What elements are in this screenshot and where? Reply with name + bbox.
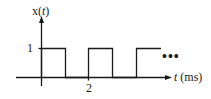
x-axis-arrow-icon xyxy=(165,75,172,80)
x-tick-label: 2 xyxy=(86,82,92,94)
continuation-ellipsis: ••• xyxy=(162,50,180,64)
x-axis-label: t (ms) xyxy=(174,71,202,83)
y-tick-label: 1 xyxy=(27,42,33,54)
square-wave-signal xyxy=(42,49,162,78)
y-axis-label: x(t) xyxy=(32,5,49,17)
